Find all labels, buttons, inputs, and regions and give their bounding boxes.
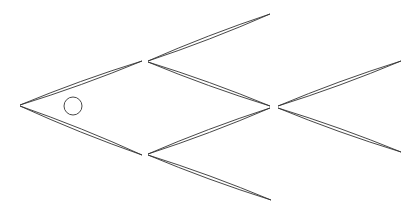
fish-eye-icon <box>64 97 82 115</box>
tail-upper-stroke <box>278 61 401 106</box>
body-upper-stroke <box>148 62 270 106</box>
body-lower-stroke <box>148 108 270 154</box>
fish-strokes <box>20 14 401 200</box>
head-upper-stroke <box>20 61 142 105</box>
tail-lower-stroke <box>278 108 401 152</box>
fin-bottom-stroke <box>148 155 271 200</box>
fin-top-stroke <box>148 14 270 61</box>
head-lower-stroke <box>20 106 142 155</box>
fish-drawing <box>0 0 420 212</box>
